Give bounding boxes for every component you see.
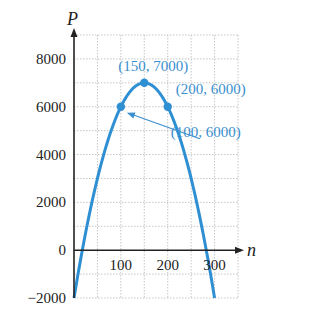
series-line-p	[74, 83, 215, 298]
annotation-label: (100, 6000)	[171, 124, 241, 141]
y-tick-label: 4000	[36, 147, 66, 163]
y-tick-label: 8000	[36, 51, 66, 67]
x-tick-label: 300	[203, 257, 226, 273]
data-point	[164, 103, 172, 111]
annotation-label: (200, 6000)	[176, 81, 246, 98]
x-axis-arrow-icon	[235, 247, 244, 254]
y-tick-label: 0	[59, 242, 67, 258]
data-point	[117, 103, 125, 111]
x-tick-label: 200	[156, 257, 179, 273]
y-axis-label: P	[66, 9, 78, 29]
data-points	[117, 79, 172, 111]
y-tick-label: −2000	[28, 290, 66, 306]
curve-layer	[74, 83, 215, 298]
y-tick-label: 6000	[36, 99, 66, 115]
x-tick-label: 100	[110, 257, 133, 273]
y-tick-labels: −2000 0 2000 4000 6000 8000	[28, 51, 66, 306]
x-axis-label: n	[247, 240, 256, 260]
x-tick-labels: 100 200 300	[110, 257, 226, 273]
y-tick-label: 2000	[36, 194, 66, 210]
point-annotations: (150, 7000) (200, 6000) (100, 6000)	[118, 58, 245, 141]
annotation-arrow-head-icon	[127, 112, 136, 118]
data-point	[140, 79, 148, 87]
chart: n P 100 200 300 −2000 0 2000 4000 6000 8…	[0, 0, 311, 320]
y-axis-arrow-icon	[71, 28, 78, 37]
annotation-label: (150, 7000)	[118, 58, 188, 75]
